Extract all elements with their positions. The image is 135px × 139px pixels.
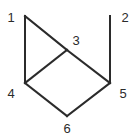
node-label-4: 4 xyxy=(7,86,14,101)
node-label-3: 3 xyxy=(72,33,79,48)
node-label-5: 5 xyxy=(119,86,126,101)
edge-6-5 xyxy=(67,83,110,116)
node-label-1: 1 xyxy=(7,10,14,25)
graph-diagram: 1 2 3 4 5 6 xyxy=(0,0,135,139)
node-label-6: 6 xyxy=(63,121,70,136)
edges xyxy=(25,16,110,116)
edge-1-3 xyxy=(25,16,67,50)
edge-4-6 xyxy=(25,83,67,116)
edge-3-5 xyxy=(67,50,110,83)
node-label-2: 2 xyxy=(121,10,128,25)
edge-3-4 xyxy=(25,50,67,83)
